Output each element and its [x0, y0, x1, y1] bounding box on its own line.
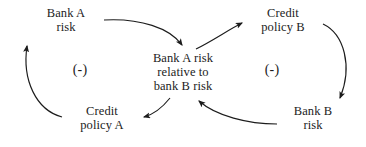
edge-center-to-credit-policy-b: [196, 23, 242, 49]
edge-credit-policy-b-to-bank-b-risk: [323, 24, 346, 98]
left-loop-polarity-marker: (-): [62, 62, 98, 78]
node-bank-a-risk-relative-to-bank-b-risk: Bank A risk relative to bank B risk: [128, 51, 238, 93]
edge-bank-a-risk-to-center: [104, 20, 182, 45]
node-credit-policy-b: Credit policy B: [243, 6, 323, 34]
edge-center-to-credit-policy-a: [144, 98, 170, 117]
causal-loop-diagram: Bank A risk Credit policy B Bank A risk …: [0, 0, 366, 147]
node-bank-a-risk: Bank A risk: [28, 6, 104, 34]
edge-bank-b-risk-to-center: [199, 101, 277, 124]
edge-credit-policy-a-to-bank-a-risk: [26, 46, 62, 117]
right-loop-polarity-marker: (-): [254, 62, 290, 78]
node-bank-b-risk: Bank B risk: [275, 104, 351, 132]
node-credit-policy-a: Credit policy A: [62, 104, 142, 132]
